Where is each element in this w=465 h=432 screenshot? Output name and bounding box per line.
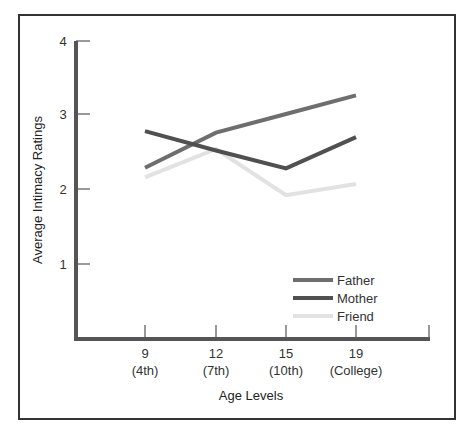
y-tick-label: 4: [59, 34, 66, 49]
legend-label-father: Father: [337, 273, 375, 288]
y-tick-label: 3: [59, 107, 66, 122]
x-tick-grade: (7th): [203, 363, 230, 378]
x-tick-age: 15: [279, 346, 293, 361]
x-tick-grade: (10th): [269, 363, 303, 378]
legend-label-mother: Mother: [337, 291, 378, 306]
legend: Father Mother Friend: [293, 273, 378, 324]
x-tick-labels: 9 (4th) 12 (7th) 15 (10th) 19 (College): [132, 346, 383, 378]
y-tick-label: 1: [59, 257, 66, 272]
x-tick-age: 12: [209, 346, 223, 361]
x-ticks: [145, 325, 429, 339]
x-tick-grade: (College): [330, 363, 383, 378]
y-ticks: [76, 41, 90, 264]
x-tick-age: 9: [141, 346, 148, 361]
chart-frame: [19, 15, 455, 419]
legend-label-friend: Friend: [337, 309, 374, 324]
series-layer: [145, 95, 356, 195]
y-tick-labels: 1 2 3 4: [59, 34, 66, 272]
y-axis-title: Average Intimacy Ratings: [30, 116, 45, 264]
series-line-friend: [145, 149, 356, 195]
y-tick-label: 2: [59, 182, 66, 197]
line-chart: 1 2 3 4 9 (4th) 12 (7th) 15 (10th) 19 (C…: [0, 0, 465, 432]
x-tick-grade: (4th): [132, 363, 159, 378]
x-axis-title: Age Levels: [219, 388, 284, 403]
series-line-father: [145, 95, 356, 167]
x-tick-age: 19: [349, 346, 363, 361]
